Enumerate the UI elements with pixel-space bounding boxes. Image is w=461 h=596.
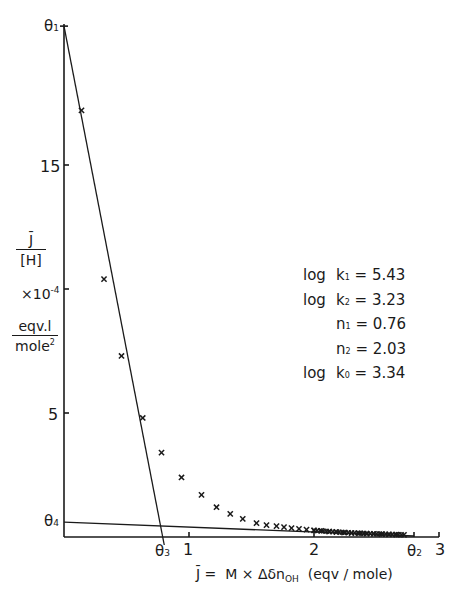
x-tick-2: 2 xyxy=(309,542,319,558)
data-point-x-marker xyxy=(264,522,269,527)
y-label-unit: eqv.l mole2 xyxy=(12,318,58,354)
data-point-x-marker xyxy=(199,492,204,497)
data-point-x-marker xyxy=(274,523,279,528)
data-point-x-marker xyxy=(289,525,294,530)
parameter-row: n2 = 2.03 xyxy=(303,340,406,358)
data-point-x-marker xyxy=(254,521,259,526)
y-label-fraction: J̄ [H] xyxy=(16,232,46,268)
data-point-x-marker xyxy=(240,516,245,521)
parameter-row: logk0 = 3.34 xyxy=(303,364,405,382)
data-point-x-marker xyxy=(179,475,184,480)
data-point-x-marker xyxy=(281,524,286,529)
data-point-x-marker xyxy=(159,450,164,455)
x-axis-label: J̄ = M × ΔδnOH (eqv / mole) xyxy=(196,567,393,584)
y-label-scale: ×10-4 xyxy=(21,286,60,301)
theta4-label: θ4 xyxy=(44,514,59,529)
data-point-x-marker xyxy=(228,511,233,516)
y-tick-5: 5 xyxy=(48,407,58,423)
x-tick-1: 1 xyxy=(183,542,193,558)
data-point-x-marker xyxy=(101,276,106,281)
data-point-x-marker xyxy=(214,505,219,510)
theta2-label: θ2 xyxy=(407,544,422,559)
data-point-x-marker xyxy=(140,415,145,420)
parameter-row: n1 = 0.76 xyxy=(303,315,406,333)
y-tick-15: 15 xyxy=(40,159,60,175)
x-tick-3: 3 xyxy=(435,542,445,558)
limiting-lines xyxy=(64,26,414,545)
data-point-x-marker xyxy=(119,353,124,358)
theta1-label: θ1 xyxy=(44,19,59,34)
theta3-label: θ3 xyxy=(155,544,170,559)
parameter-row: logk1 = 5.43 xyxy=(303,266,405,284)
limiting-line-1 xyxy=(64,26,164,545)
data-point-x-marker xyxy=(296,526,301,531)
parameter-row: logk2 = 3.23 xyxy=(303,291,405,309)
